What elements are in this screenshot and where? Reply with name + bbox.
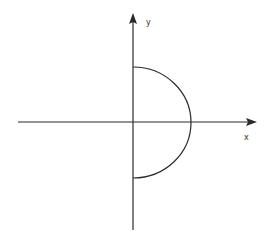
x-axis xyxy=(18,118,257,126)
y-axis-label: y xyxy=(146,18,151,27)
x-axis-label: x xyxy=(244,133,249,142)
coordinate-diagram: y x xyxy=(0,0,271,241)
